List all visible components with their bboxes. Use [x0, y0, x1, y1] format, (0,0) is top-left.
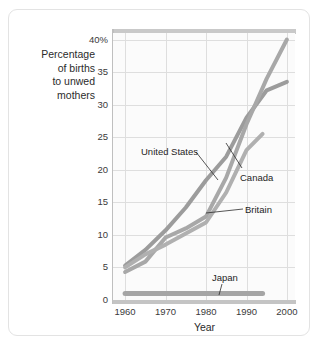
series-label-britain: Britain: [245, 204, 272, 215]
series-label-canada: Canada: [240, 172, 273, 183]
series-label-united-states: United States: [141, 146, 198, 157]
x-axis-title: Year: [113, 321, 296, 333]
leader-line: [196, 152, 218, 180]
leader-line: [206, 209, 243, 213]
leader-line: [226, 143, 242, 168]
plot-area: 0510152025303540% 19601970198019902000 U…: [0, 0, 320, 364]
leader-line: [219, 284, 222, 295]
series-label-japan: Japan: [212, 272, 238, 283]
